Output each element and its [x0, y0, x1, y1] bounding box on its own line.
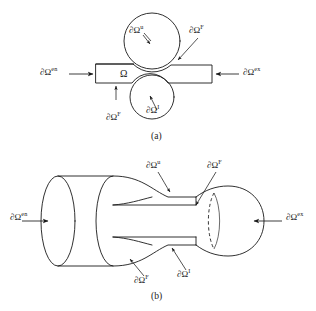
label-upper-u-base-a: ∂Ω	[129, 25, 140, 35]
label-inlet-sup-b: en	[21, 210, 27, 217]
label-outlet-boundary-a: ∂Ωex	[243, 68, 260, 77]
label-lower-F-sup-a: F	[117, 110, 121, 117]
caption-panel-b: (b)	[151, 291, 162, 301]
label-upper-u-sup-a: u	[140, 23, 143, 30]
omega-domain-outline	[96, 64, 212, 83]
leader-lower-I-arrow-b	[172, 248, 186, 270]
label-outlet-base-a: ∂Ω	[243, 67, 254, 77]
label-domain-symbol-a: Ω	[120, 68, 127, 79]
cylinder-junction-arc-b	[96, 176, 113, 266]
leader-upper-F-arrow-a	[178, 38, 198, 60]
figure-root: ∂Ωen ∂Ωex ∂Ωu ∂ΩF ∂ΩF ∂ΩI Ω (a) ∂Ωen ∂Ωe…	[0, 0, 316, 311]
label-outlet-sup-a: ex	[254, 65, 260, 72]
label-inlet-boundary-b: ∂Ωen	[10, 213, 27, 222]
bore-lower-flare-b	[113, 237, 152, 245]
label-traction-boundary-lower-b: ∂ΩF	[134, 276, 149, 285]
upper-circle-obstacle	[124, 13, 180, 69]
label-upper-u-sup-b: u	[157, 158, 160, 165]
label-traction-boundary-upper-b: ∂ΩF	[207, 161, 222, 170]
figure-vector-graphics	[0, 0, 316, 311]
bore-upper-flare-b	[113, 197, 152, 205]
upper-silhouette-b	[58, 176, 196, 197]
label-upper-F-sup-b: F	[218, 158, 222, 165]
label-upper-F-base-a: ∂Ω	[189, 25, 200, 35]
panel-b-graphics	[22, 172, 282, 276]
label-interface-boundary-lower-b: ∂ΩI	[177, 270, 191, 279]
label-lower-F-base-a: ∂Ω	[106, 112, 117, 122]
label-upper-F-base-b: ∂Ω	[207, 160, 218, 170]
label-inlet-base-a: ∂Ω	[40, 67, 51, 77]
label-lower-F-base-b: ∂Ω	[134, 275, 145, 285]
label-outlet-boundary-b: ∂Ωex	[286, 213, 303, 222]
label-lower-F-sup-b: F	[145, 273, 149, 280]
label-inlet-boundary-a: ∂Ωen	[40, 68, 57, 77]
label-upper-F-sup-a: F	[200, 23, 204, 30]
label-displacement-boundary-upper-b: ∂Ωu	[146, 161, 161, 170]
label-lower-I-base-a: ∂Ω	[146, 105, 157, 115]
label-lower-I-sup-b: I	[188, 267, 190, 274]
label-traction-boundary-lower-a: ∂ΩF	[106, 113, 121, 122]
label-lower-I-sup-a: I	[157, 103, 159, 110]
caption-panel-a: (a)	[151, 131, 162, 141]
label-displacement-boundary-upper-a: ∂Ωu	[129, 26, 144, 35]
label-outlet-sup-b: ex	[297, 210, 303, 217]
lower-silhouette-b	[58, 245, 196, 266]
label-inlet-sup-a: en	[51, 65, 57, 72]
label-upper-u-base-b: ∂Ω	[146, 160, 157, 170]
leader-upper-u-arrow-b	[158, 172, 170, 192]
visible-junction-arc-b	[214, 193, 220, 249]
outlet-bulb-outline-b	[196, 186, 264, 256]
leader-upper-u-a	[144, 33, 151, 41]
hidden-junction-arc-b	[208, 193, 214, 249]
label-inlet-base-b: ∂Ω	[10, 212, 21, 222]
label-lower-I-base-b: ∂Ω	[177, 269, 188, 279]
panel-a-graphics	[69, 13, 239, 119]
label-traction-boundary-upper-a: ∂ΩF	[189, 26, 204, 35]
label-outlet-base-b: ∂Ω	[286, 212, 297, 222]
label-interface-boundary-lower-a: ∂ΩI	[146, 106, 160, 115]
